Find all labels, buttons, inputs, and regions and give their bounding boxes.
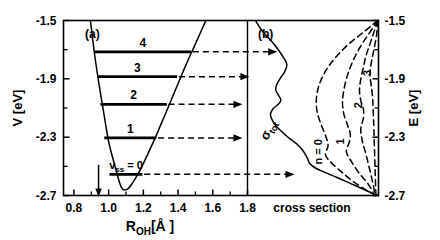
xtick-label: 0.8 <box>66 201 83 215</box>
ytick-label-right: -1.9 <box>385 72 406 86</box>
ytick-label-right: -2.7 <box>385 189 406 203</box>
potential-and-cross-section-figure: -1.5-1.9-2.3-2.7-1.5-1.9-2.3-2.70.81.01.… <box>0 0 440 240</box>
ytick-label-right: -2.3 <box>385 130 406 144</box>
xtick-label: 1.4 <box>170 201 187 215</box>
figure-container: -1.5-1.9-2.3-2.7-1.5-1.9-2.3-2.70.81.01.… <box>0 0 440 240</box>
vibrational-level-label: 3 <box>134 61 141 75</box>
vibrational-level-label: 2 <box>130 88 137 102</box>
y-axis-title-right: E [eV] <box>406 90 421 127</box>
ytick-label-right: -1.5 <box>385 14 406 28</box>
partial-cross-section-label: 3 <box>361 70 373 76</box>
xtick-label: 1.6 <box>204 201 221 215</box>
ytick-label-left: -2.3 <box>36 130 57 144</box>
y-axis-title-left: V [eV] <box>10 90 25 127</box>
ytick-label-left: -2.7 <box>36 189 57 203</box>
vibrational-level-label: 1 <box>127 122 134 136</box>
partial-cross-section-label: 1 <box>334 138 346 144</box>
ytick-label-left: -1.5 <box>36 14 57 28</box>
x-axis-title-right: cross section <box>273 201 350 215</box>
partial-cross-section-label: 2 <box>352 102 364 108</box>
xtick-label: 1.8 <box>239 201 256 215</box>
vibrational-level-label: 4 <box>139 36 146 50</box>
partial-cross-section-label: n = 0 <box>312 139 324 164</box>
xtick-label: 1.2 <box>135 201 152 215</box>
xtick-label: 1.0 <box>100 201 117 215</box>
ytick-label-left: -1.9 <box>36 72 57 86</box>
